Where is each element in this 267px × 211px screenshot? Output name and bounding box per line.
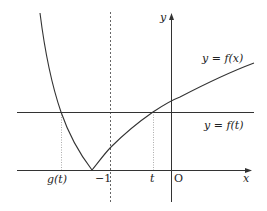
- curve-left-branch: [40, 13, 92, 170]
- x-axis-label: x: [243, 172, 250, 185]
- tick-label-g-t: g(t): [47, 173, 67, 186]
- y-axis-label: y: [159, 11, 167, 24]
- graph-canvas: y x O y = f(x) y = f(t) g(t) −1 t: [0, 0, 267, 211]
- tick-label-t: t: [150, 172, 155, 185]
- tick-label-minus-one: −1: [95, 172, 111, 185]
- curve-label-f-x: y = f(x): [201, 52, 243, 65]
- curve-right-branch: [92, 63, 254, 170]
- function-graph-diagram: y x O y = f(x) y = f(t) g(t) −1 t: [0, 0, 267, 211]
- line-label-f-t: y = f(t): [203, 119, 244, 132]
- y-axis-arrow-icon: [169, 13, 174, 20]
- origin-label: O: [174, 172, 183, 185]
